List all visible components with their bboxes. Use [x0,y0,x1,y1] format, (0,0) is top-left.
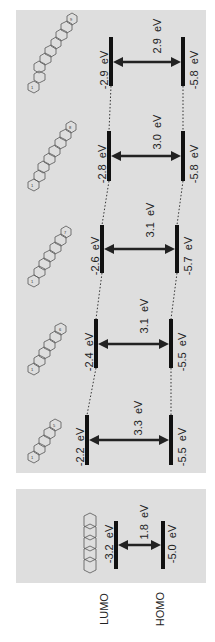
homo-level-9 [181,37,185,86]
pentacene-gap-value: 1.8 [138,524,150,539]
gap-value-8: 3.0 [151,134,163,149]
pentacene-lumo-value: -3.2 [103,544,115,563]
svg-text:7: 7 [64,230,67,235]
homo-value-6: -5.5 [176,352,188,371]
svg-text:8: 8 [69,125,72,130]
gap-arrow-6 [98,337,169,351]
homo-value-7: -5.7 [182,256,194,275]
svg-text:1: 1 [31,367,34,372]
gap-arrow-7 [104,242,175,256]
phenacene-6-structure: 1 6 [20,318,72,380]
svg-text:1: 1 [31,183,34,188]
homo-level-7 [175,225,179,273]
gap-value-6: 3.1 [138,318,150,333]
svg-text:5: 5 [53,423,56,428]
lumo-value-9: -2.9 [98,70,110,89]
unit: eV [98,51,110,64]
lumo-axis-label: LUMO [98,589,110,629]
homo-value-8: -5.8 [188,164,200,183]
svg-text:1: 1 [31,455,34,460]
lumo-value-8: -2.8 [96,164,108,183]
phenacene-9-structure: 1 9 [20,12,80,98]
phenacene-5-structure: 1 5 [20,410,68,468]
lumo-value-5: -2.2 [74,447,86,466]
phenacene-8-structure: 1 8 [20,118,80,196]
svg-text:1: 1 [31,85,34,90]
homo-level-6 [169,319,173,368]
svg-text:1: 1 [31,279,34,284]
phenacene-7-structure: 1 7 [20,222,76,292]
gap-arrow-5 [89,433,169,447]
ring-count-9: 9 [70,17,73,22]
homo-level-8 [181,131,185,181]
lumo-value-6: -2.4 [83,352,95,371]
pentacene-homo-level [161,521,165,569]
gap-arrow-8 [111,149,181,163]
pentacene-structure [78,512,102,580]
pentacene-homo-value: -5.0 [166,544,178,563]
homo-axis-label: HOMO [154,589,166,629]
homo-value-5: -5.5 [176,447,188,466]
svg-text:6: 6 [59,327,62,332]
gap-arrow-9 [113,55,181,69]
homo-value-9: -5.8 [188,70,200,89]
gap-value-5: 3.3 [132,420,144,435]
gap-value-7: 3.1 [144,222,156,237]
gap-value-9: 2.9 [151,38,163,53]
lumo-value-7: -2.6 [89,256,101,275]
homo-level-5 [169,415,173,465]
